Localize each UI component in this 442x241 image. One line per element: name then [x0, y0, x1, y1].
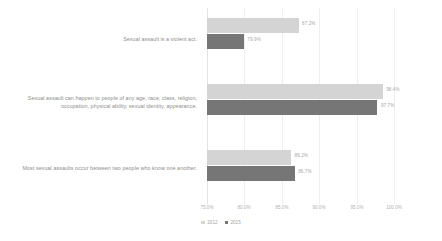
bar-group-0: 87.2% 79.9% [207, 18, 395, 50]
bar-2012-1[interactable] [207, 84, 383, 99]
x-axis-tick: 85.0% [275, 205, 288, 210]
legend-item-2012[interactable]: 2012 [201, 220, 217, 225]
x-axis: 75.0% 80.0% 85.0% 90.0% 95.0% 100.0% [207, 205, 395, 217]
legend-swatch-icon [225, 221, 229, 225]
bar-row: 87.2% [207, 18, 395, 33]
bar-2012-2[interactable] [207, 150, 291, 165]
bar-value-label: 98.4% [386, 87, 400, 92]
bar-group-2: 86.2% 86.7% [207, 150, 395, 182]
bar-group-1: 98.4% 97.7% [207, 84, 395, 116]
x-axis-tick: 80.0% [237, 205, 250, 210]
legend-label: 2012 [207, 220, 217, 225]
x-axis-tick: 90.0% [312, 205, 325, 210]
bar-row: 97.7% [207, 100, 395, 115]
bar-2015-1[interactable] [207, 100, 377, 115]
legend-label: 2015 [231, 220, 241, 225]
bar-row: 86.2% [207, 150, 395, 165]
bar-2012-0[interactable] [207, 18, 299, 33]
bar-row: 79.9% [207, 34, 395, 49]
bar-2015-0[interactable] [207, 34, 244, 49]
plot-area: 87.2% 79.9% 98.4% 97.7% 86.2% [207, 8, 395, 204]
x-axis-tick: 95.0% [350, 205, 363, 210]
category-label-0: Sexual assault is a violent act. [12, 35, 197, 43]
bar-row: 98.4% [207, 84, 395, 99]
bar-value-label: 86.7% [298, 169, 312, 174]
x-axis-tick: 100.0% [386, 205, 402, 210]
category-label-2: Most sexual assaults occur between two p… [12, 164, 197, 172]
bar-2015-2[interactable] [207, 166, 295, 181]
bar-row: 86.7% [207, 166, 395, 181]
bar-value-label: 87.2% [302, 21, 316, 26]
category-label-1: Sexual assault can happen to people of a… [12, 94, 197, 110]
bar-chart: Sexual assault is a violent act. Sexual … [0, 0, 442, 241]
x-axis-tick: 75.0% [200, 205, 213, 210]
chart-legend: 2012 2015 [0, 220, 442, 225]
legend-item-2015[interactable]: 2015 [225, 220, 241, 225]
bar-value-label: 86.2% [295, 153, 309, 158]
bar-value-label: 97.7% [381, 103, 395, 108]
legend-swatch-icon [201, 221, 205, 225]
bar-value-label: 79.9% [247, 37, 261, 42]
